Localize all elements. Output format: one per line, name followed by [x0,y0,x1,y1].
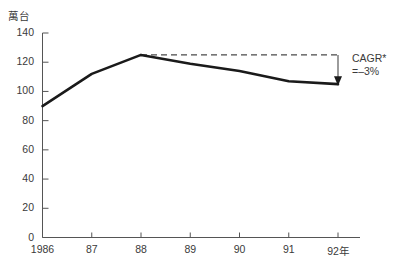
chart-container: 萬台 020406080100120140 1986878889909192年 … [0,0,394,269]
x-tick-label: 1986 [31,243,54,255]
x-tick-label: 91 [283,243,295,255]
data-series-line [43,55,339,106]
y-tick-label: 140 [8,26,34,38]
y-tick-label: 100 [8,84,34,96]
cagr-annotation: CAGR* =–3% [352,52,386,78]
x-tick-label: 92年 [327,243,349,258]
y-axis-ticks [43,33,49,238]
y-tick-label: 0 [8,231,34,243]
x-axis-ticks [43,233,339,238]
cagr-annotation-value: =–3% [352,65,386,78]
y-tick-label: 60 [8,143,34,155]
x-tick-label: 90 [234,243,246,255]
x-tick-label: 89 [184,243,196,255]
y-tick-label: 20 [8,201,34,213]
cagr-annotation-label: CAGR* [352,52,386,65]
y-tick-label: 40 [8,172,34,184]
line-chart-canvas [0,0,394,269]
x-tick-label: 87 [86,243,98,255]
y-tick-label: 120 [8,55,34,67]
y-tick-label: 80 [8,114,34,126]
y-axis-unit-label: 萬台 [8,8,29,23]
x-tick-label: 88 [135,243,147,255]
